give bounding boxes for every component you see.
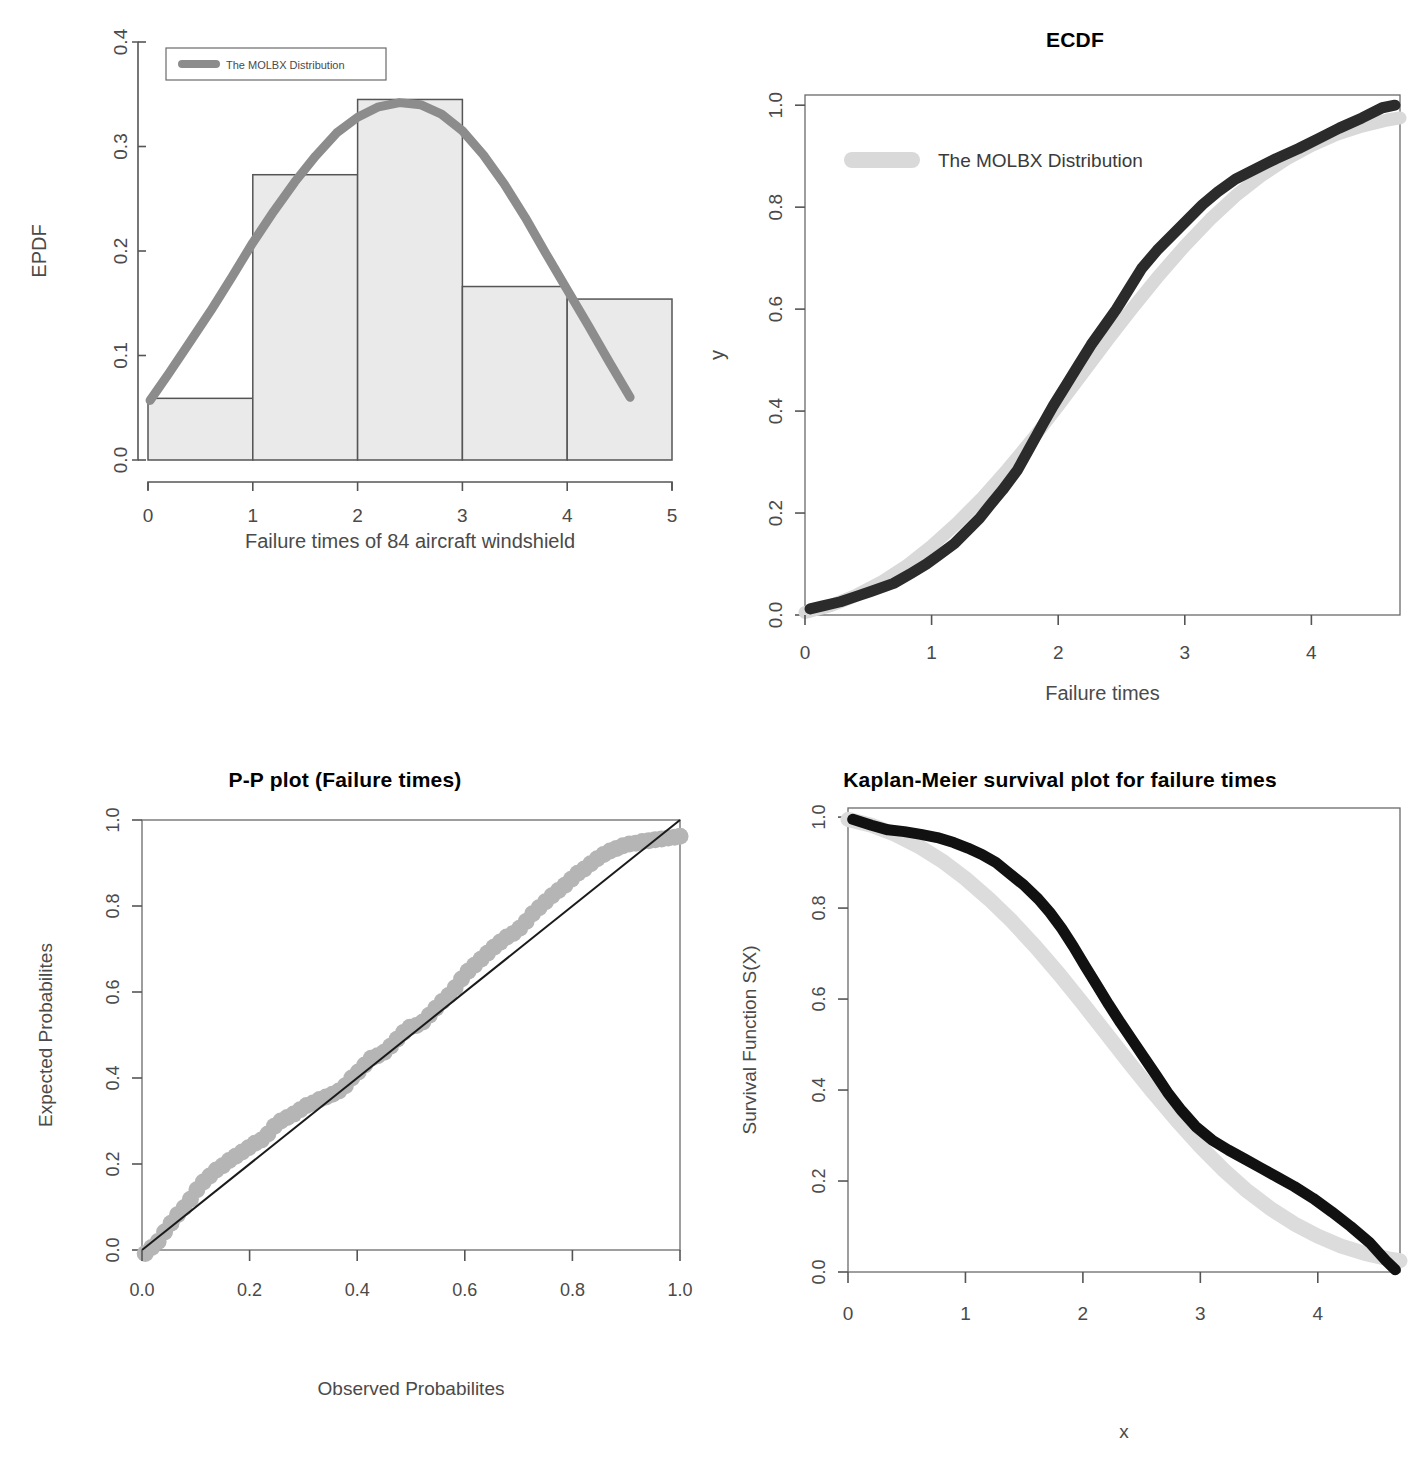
panel-km: Kaplan-Meier survival plot for failure t… xyxy=(700,750,1420,1473)
ecdf-x-axis-title: Failure times xyxy=(1045,682,1159,704)
ecdf-y-axis: 0.00.20.40.60.81.0 xyxy=(765,92,805,628)
epdf-ytick-label: 0.2 xyxy=(110,238,131,264)
ecdf-chart: 0.00.20.40.60.81.0y01234Failure timesThe… xyxy=(700,0,1420,740)
ecdf-xtick-label: 3 xyxy=(1179,642,1190,663)
km-ytick-label: 0.2 xyxy=(809,1169,829,1194)
epdf-chart: 0.00.10.20.30.4EPDF012345Failure times o… xyxy=(0,0,710,600)
epdf-ytick-label: 0.1 xyxy=(110,342,131,368)
pp-ytick-label: 0.2 xyxy=(103,1151,123,1176)
epdf-x-axis: 012345 xyxy=(143,482,678,526)
km-ytick-label: 0.8 xyxy=(809,896,829,921)
pp-chart: 0.00.20.40.60.81.0Expected Probabilites0… xyxy=(0,750,710,1473)
panel-pp: P-P plot (Failure times) 0.00.20.40.60.8… xyxy=(0,750,710,1473)
epdf-bar xyxy=(358,99,463,460)
ecdf-ytick-label: 0.6 xyxy=(765,296,786,322)
ecdf-ytick-label: 0.2 xyxy=(765,500,786,526)
pp-point xyxy=(672,828,689,845)
km-x-axis-title: x xyxy=(1119,1421,1129,1442)
pp-ytick-label: 0.6 xyxy=(103,979,123,1004)
pp-y-axis: 0.00.20.40.60.81.0 xyxy=(103,807,142,1262)
epdf-xtick-label: 1 xyxy=(248,505,259,526)
epdf-xtick-label: 3 xyxy=(457,505,468,526)
epdf-y-axis: 0.00.10.20.30.4EPDF xyxy=(28,28,146,473)
ecdf-ytick-label: 0.8 xyxy=(765,194,786,220)
pp-ytick-label: 0.8 xyxy=(103,893,123,918)
km-xtick-label: 3 xyxy=(1195,1303,1206,1324)
ecdf-legend-label: The MOLBX Distribution xyxy=(938,150,1143,171)
epdf-x-axis-title: Failure times of 84 aircraft windshield xyxy=(245,530,575,552)
epdf-xtick-label: 4 xyxy=(562,505,573,526)
epdf-ytick-label: 0.0 xyxy=(110,447,131,473)
pp-points xyxy=(137,828,689,1262)
pp-x-axis-title: Observed Probabilites xyxy=(318,1378,505,1399)
pp-reference-line xyxy=(142,820,680,1250)
panel-ecdf: ECDF 0.00.20.40.60.81.0y01234Failure tim… xyxy=(700,0,1420,740)
km-xtick-label: 2 xyxy=(1078,1303,1089,1324)
epdf-xtick-label: 0 xyxy=(143,505,154,526)
ecdf-y-axis-title: y xyxy=(706,350,728,360)
ecdf-ytick-label: 0.0 xyxy=(765,602,786,628)
pp-xtick-label: 1.0 xyxy=(667,1280,692,1300)
epdf-bar xyxy=(462,287,567,460)
epdf-ytick-label: 0.3 xyxy=(110,133,131,159)
km-y-axis: 0.00.20.40.60.81.0 xyxy=(809,805,848,1285)
km-ytick-label: 0.6 xyxy=(809,987,829,1012)
km-ytick-label: 0.4 xyxy=(809,1078,829,1103)
km-x-axis: 01234 xyxy=(843,1272,1324,1324)
pp-ytick-label: 0.0 xyxy=(103,1237,123,1262)
ecdf-legend: The MOLBX Distribution xyxy=(852,150,1143,171)
pp-xtick-label: 0.0 xyxy=(129,1280,154,1300)
pp-xtick-label: 0.8 xyxy=(560,1280,585,1300)
epdf-y-axis-title: EPDF xyxy=(28,224,50,277)
pp-ytick-label: 1.0 xyxy=(103,807,123,832)
km-xtick-label: 4 xyxy=(1312,1303,1323,1324)
panel-epdf: 0.00.10.20.30.4EPDF012345Failure times o… xyxy=(0,0,710,600)
km-xtick-label: 1 xyxy=(960,1303,971,1324)
epdf-xtick-label: 5 xyxy=(667,505,678,526)
pp-x-axis: 0.00.20.40.60.81.0 xyxy=(129,1250,692,1300)
ecdf-xtick-label: 4 xyxy=(1306,642,1317,663)
ecdf-title: ECDF xyxy=(740,28,1410,52)
ecdf-series-line xyxy=(805,118,1400,613)
ecdf-xtick-label: 0 xyxy=(800,642,811,663)
ecdf-x-axis: 01234 xyxy=(800,615,1317,663)
epdf-xtick-label: 2 xyxy=(352,505,363,526)
pp-xtick-label: 0.2 xyxy=(237,1280,262,1300)
km-xtick-label: 0 xyxy=(843,1303,854,1324)
pp-ytick-label: 0.4 xyxy=(103,1065,123,1090)
km-chart: 0.00.20.40.60.81.0Survival Function S(X)… xyxy=(700,750,1420,1473)
ecdf-xtick-label: 2 xyxy=(1053,642,1064,663)
pp-xtick-label: 0.6 xyxy=(452,1280,477,1300)
ecdf-ytick-label: 0.4 xyxy=(765,397,786,424)
epdf-legend-label: The MOLBX Distribution xyxy=(226,59,345,71)
pp-title: P-P plot (Failure times) xyxy=(20,768,670,792)
km-ytick-label: 0.0 xyxy=(809,1259,829,1284)
km-title: Kaplan-Meier survival plot for failure t… xyxy=(710,768,1410,792)
pp-y-axis-title: Expected Probabilites xyxy=(35,943,56,1127)
ecdf-xtick-label: 1 xyxy=(926,642,937,663)
km-series-line xyxy=(848,819,1400,1260)
figure-canvas: 0.00.10.20.30.4EPDF012345Failure times o… xyxy=(0,0,1420,1473)
epdf-ytick-label: 0.4 xyxy=(110,28,131,55)
ecdf-ytick-label: 1.0 xyxy=(765,92,786,118)
epdf-legend: The MOLBX Distribution xyxy=(166,48,386,80)
km-y-axis-title: Survival Function S(X) xyxy=(739,945,760,1134)
km-ytick-label: 1.0 xyxy=(809,805,829,830)
pp-xtick-label: 0.4 xyxy=(345,1280,370,1300)
epdf-bar xyxy=(148,398,253,460)
